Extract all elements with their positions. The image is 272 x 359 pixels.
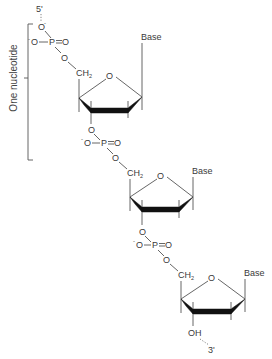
svg-text:2: 2 [89,73,92,79]
svg-text:O: O [139,227,146,237]
svg-text:O: O [114,138,121,148]
five-prime-label: 5' [36,4,43,14]
base-label-1: Base [141,32,162,42]
svg-text:O: O [61,53,68,63]
phosphate-group-2: O - O P O O [81,125,127,169]
svg-text:2: 2 [140,173,143,179]
svg-text:2: 2 [191,275,194,281]
sugar-ring-2: CH 2 O Base [127,166,213,225]
svg-text:P: P [101,138,107,148]
base-label-2: Base [192,166,213,176]
svg-text:O: O [88,125,95,135]
sugar-ring-3: CH 2 O Base OH 3' [178,268,265,355]
svg-text:P: P [49,37,55,47]
svg-text:CH: CH [76,68,89,78]
svg-text:-: - [44,20,46,26]
svg-text:O: O [163,255,170,265]
svg-text:-: - [133,238,135,244]
svg-text:O: O [136,240,143,250]
svg-text:-: - [81,136,83,142]
svg-text:CH: CH [127,168,140,178]
dna-backbone-diagram: One nucleotide 5' O - - O P O O CH 2 O [0,0,272,359]
svg-text:O: O [106,71,113,81]
svg-text:O: O [84,138,91,148]
svg-text:-: - [28,36,30,42]
bracket-label: One nucleotide [8,44,19,112]
svg-text:P: P [152,240,158,250]
hydroxyl-label: OH [188,328,202,338]
phosphate-group-1: 5' O - - O P O O [28,4,76,69]
phosphate-group-3: O - O P O O [133,227,178,271]
svg-text:O: O [31,37,38,47]
base-label-3: Base [244,268,265,278]
svg-text:O: O [165,240,172,250]
svg-text:O: O [112,153,119,163]
svg-text:O: O [157,171,164,181]
three-prime-label: 3' [208,345,215,355]
svg-text:O: O [208,273,215,283]
nucleotide-bracket: One nucleotide [8,24,33,160]
sugar-ring-1: CH 2 O Base [76,32,162,124]
svg-text:O: O [62,37,69,47]
svg-text:CH: CH [178,270,191,280]
